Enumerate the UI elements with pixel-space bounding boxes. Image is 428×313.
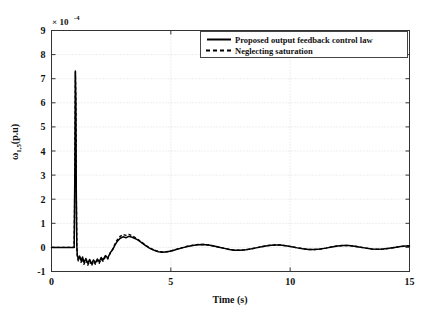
y-axis-symbol: ω	[9, 153, 20, 160]
chart-canvas: 051015 -10123456789 Time (s) ω1,5 (p.u) …	[0, 0, 428, 313]
y-tick-label: 5	[41, 121, 46, 132]
figure-container: 051015 -10123456789 Time (s) ω1,5 (p.u) …	[0, 0, 428, 313]
y-tick-label: 8	[41, 49, 46, 60]
y-tick-label: 6	[41, 97, 46, 108]
x-tick-label: 15	[405, 276, 415, 287]
y-axis-unit-text: (p.u)	[9, 124, 21, 144]
y-tick-label: 0	[41, 242, 46, 253]
legend-label-proposed: Proposed output feedback control law	[235, 35, 373, 45]
exponent-power: -4	[74, 14, 80, 21]
x-axis-title: Time (s)	[212, 294, 247, 306]
y-tick-label: 3	[41, 170, 46, 181]
y-tick-label: 4	[41, 146, 46, 157]
x-tick-label: 0	[49, 276, 54, 287]
chart-legend[interactable]: Proposed output feedback control law Neg…	[201, 32, 408, 58]
exponent-prefix: × 10	[52, 17, 69, 27]
legend-label-neglecting: Neglecting saturation	[235, 46, 313, 56]
x-tick-label: 10	[285, 276, 295, 287]
y-tick-label: 7	[41, 73, 46, 84]
x-tick-label: 5	[168, 276, 173, 287]
y-tick-label: 2	[41, 194, 46, 205]
y-tick-label: -1	[37, 266, 45, 277]
y-tick-label: 1	[41, 218, 46, 229]
y-tick-label: 9	[41, 25, 46, 36]
